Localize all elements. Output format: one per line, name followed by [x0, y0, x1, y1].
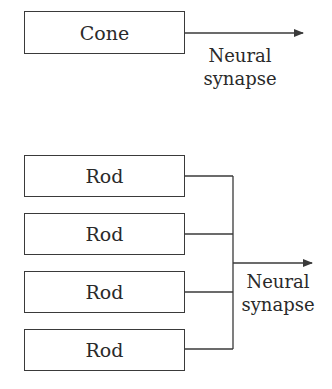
rod-synapse-label: Neural synapse — [238, 270, 318, 316]
rod-label: Rod — [86, 165, 124, 187]
rod-label: Rod — [86, 281, 124, 303]
rod-label: Rod — [86, 339, 124, 361]
rod-cell-box: Rod — [24, 155, 185, 197]
rod-cell-box: Rod — [24, 329, 185, 371]
rod-cell-box: Rod — [24, 213, 185, 255]
cone-label: Cone — [80, 22, 129, 44]
cone-synapse-label: Neural synapse — [200, 44, 280, 90]
rod-cell-box: Rod — [24, 271, 185, 313]
cone-cell-box: Cone — [24, 11, 185, 54]
rod-label: Rod — [86, 223, 124, 245]
